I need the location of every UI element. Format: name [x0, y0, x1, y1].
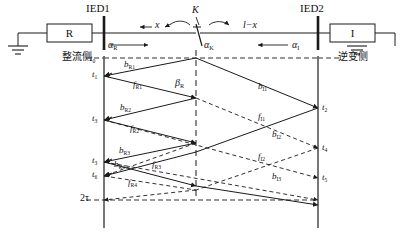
wave-label-fR4: fR4 — [128, 178, 137, 188]
rectifier-side-caption: 整流侧 — [62, 52, 92, 62]
wave-label-bR3: bR3 — [119, 146, 130, 156]
wave-label-bI2: bI2 — [272, 130, 281, 140]
wave-label-bI3: bI3 — [272, 172, 281, 182]
beta-rectifier-label: βR — [175, 78, 184, 89]
time-label-t3-b: t3 — [92, 156, 97, 166]
wave-label-bR2: bR2 — [120, 103, 131, 113]
time-label-t0: t0 — [90, 54, 95, 64]
ground-symbol-left — [8, 46, 28, 54]
wave-label-fR1: fR1 — [133, 80, 142, 90]
traveling-wave-lattice-diagram: IED1 IED2 R I 整流侧 逆变侧 K x l−x αR αK αI β… — [0, 0, 405, 235]
ied2-label: IED2 — [300, 3, 324, 14]
ied1-label: IED1 — [86, 3, 110, 14]
alpha-rectifier-label: αR — [108, 40, 117, 51]
time-label-t4: t4 — [322, 143, 327, 153]
wave-label-fR3: fR3 — [152, 160, 161, 170]
wave-label-fI2: fI2 — [258, 152, 265, 162]
time-label-t2: t2 — [322, 103, 327, 113]
rectifier-box-label: R — [47, 24, 92, 42]
fault-distance-x-label: x — [155, 20, 159, 30]
fault-marker-label: K — [192, 5, 199, 15]
fault-distance-lminusx-label: l−x — [243, 20, 257, 30]
time-label-t6: t6 — [92, 170, 97, 180]
wave-label-bR4: bR4 — [114, 160, 125, 170]
wave-label-fR2: fR2 — [130, 124, 139, 134]
wave-label-bR1: bR1 — [124, 60, 135, 70]
time-label-t5: t5 — [322, 173, 327, 183]
inverter-box-label: I — [330, 24, 375, 42]
wave-label-bI1: bI1 — [258, 82, 267, 92]
alpha-fault-label: αK — [204, 40, 214, 51]
inverter-side-caption: 逆变侧 — [338, 52, 368, 62]
alpha-inverter-label: αI — [292, 40, 299, 51]
wave-label-fI1: fI1 — [258, 112, 265, 122]
time-label-t1: t1 — [92, 70, 97, 80]
time-label-t3-a: t3 — [92, 114, 97, 124]
two-tau-label: 2τ — [80, 193, 89, 203]
